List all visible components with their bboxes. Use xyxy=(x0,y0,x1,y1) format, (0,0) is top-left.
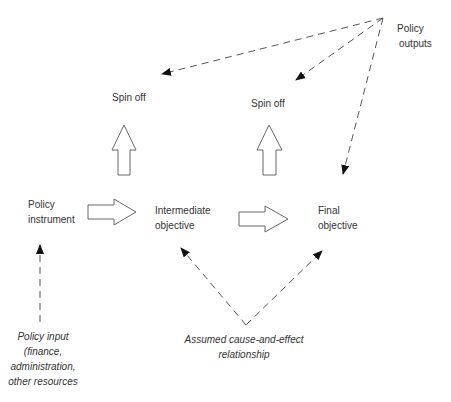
final-objective-line2: objective xyxy=(318,218,357,233)
policy-input-line2: (finance, xyxy=(3,344,83,359)
policy-instrument-line2: instrument xyxy=(28,212,75,227)
dashed-arrow-outputs-to-spinoff-left xyxy=(162,18,383,74)
dashed-arrow-relationship-to-intermediate xyxy=(181,248,246,325)
spin-off-left-label: Spin off xyxy=(112,90,146,105)
policy-input-line4: other resources xyxy=(3,374,83,389)
policy-input-line3: administration, xyxy=(3,359,83,374)
intermediate-objective-line1: Intermediate xyxy=(155,203,211,218)
final-objective-label: Final objective xyxy=(318,203,357,233)
policy-instrument-label: Policy instrument xyxy=(28,197,75,227)
dashed-arrow-outputs-to-final xyxy=(343,18,383,174)
hollow-arrow-intermediate-to-spinoff xyxy=(112,125,136,175)
policy-instrument-line1: Policy xyxy=(28,197,75,212)
hollow-arrow-intermediate-to-final xyxy=(239,206,288,232)
assumed-relationship-label: Assumed cause-and-effect relationship xyxy=(182,332,306,362)
spin-off-right-label: Spin off xyxy=(251,96,285,111)
diagram-canvas: Policy outputs Spin off Spin off Policy … xyxy=(0,0,451,402)
intermediate-objective-line2: objective xyxy=(155,218,211,233)
policy-input-label: Policy input (finance, administration, o… xyxy=(3,329,83,389)
policy-outputs-label: Policy outputs xyxy=(397,21,432,51)
assumed-relationship-line2: relationship xyxy=(182,347,306,362)
hollow-arrow-final-to-spinoff xyxy=(257,125,282,175)
policy-input-line1: Policy input xyxy=(3,329,83,344)
policy-outputs-line2: outputs xyxy=(399,36,432,51)
dashed-arrow-relationship-to-final xyxy=(246,251,322,325)
hollow-arrow-instrument-to-intermediate xyxy=(88,199,136,225)
intermediate-objective-label: Intermediate objective xyxy=(155,203,211,233)
final-objective-line1: Final xyxy=(318,203,357,218)
policy-outputs-line1: Policy xyxy=(397,21,432,36)
assumed-relationship-line1: Assumed cause-and-effect xyxy=(182,332,306,347)
